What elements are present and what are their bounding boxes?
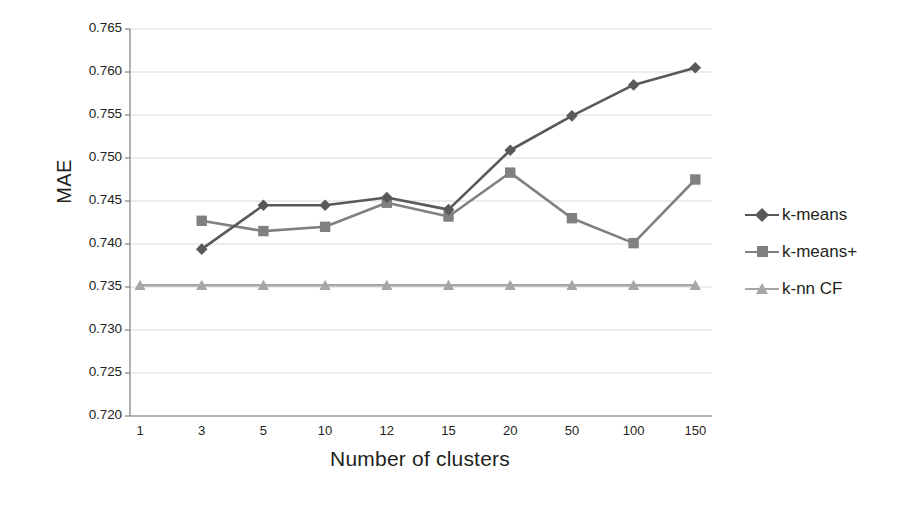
y-tick-label: 0.745 xyxy=(56,192,122,207)
x-tick-label: 15 xyxy=(424,423,474,438)
x-tick-label: 20 xyxy=(485,423,535,438)
y-tick-label: 0.730 xyxy=(56,321,122,336)
y-tick-label: 0.755 xyxy=(56,106,122,121)
legend-item-k-nn-cf[interactable]: k-nn CF xyxy=(745,270,913,307)
legend-marker-diamond-icon xyxy=(745,207,779,223)
y-tick-label: 0.750 xyxy=(56,149,122,164)
y-tick-label: 0.760 xyxy=(56,63,122,78)
x-tick-label: 1 xyxy=(115,423,165,438)
chart-container: MAE Number of clusters 0.7650.7600.7550.… xyxy=(0,0,916,507)
x-axis-title: Number of clusters xyxy=(130,447,710,471)
legend-label: k-nn CF xyxy=(779,279,842,299)
x-tick-label: 10 xyxy=(300,423,350,438)
legend-item-k-means[interactable]: k-means xyxy=(745,196,913,233)
data-series-layer xyxy=(134,62,701,290)
y-axis-title: MAE xyxy=(53,122,76,242)
y-tick-label: 0.720 xyxy=(56,407,122,422)
x-tick-label: 150 xyxy=(670,423,720,438)
x-tick-label: 3 xyxy=(177,423,227,438)
legend-item-k-means-plus[interactable]: k-means+ xyxy=(745,233,913,270)
legend-marker-triangle-icon xyxy=(745,281,779,297)
y-tick-label: 0.765 xyxy=(56,20,122,35)
legend-marker-square-icon xyxy=(745,244,779,260)
x-tick-label: 5 xyxy=(238,423,288,438)
x-tick-label: 100 xyxy=(609,423,659,438)
y-tick-label: 0.740 xyxy=(56,235,122,250)
y-tick-label: 0.725 xyxy=(56,364,122,379)
legend-label: k-means+ xyxy=(779,242,857,262)
x-tick-label: 50 xyxy=(547,423,597,438)
x-tick-label: 12 xyxy=(362,423,412,438)
chart-legend: k-means k-means+ k-nn CF xyxy=(745,196,913,307)
legend-label: k-means xyxy=(779,205,847,225)
y-tick-label: 0.735 xyxy=(56,278,122,293)
